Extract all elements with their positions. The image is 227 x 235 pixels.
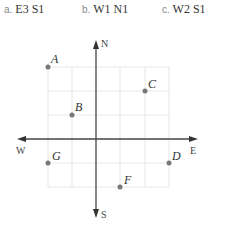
point-c [143, 89, 148, 94]
west-label: W [16, 145, 26, 156]
north-arrow-icon [93, 40, 99, 49]
point-f [118, 185, 123, 190]
point-b [70, 113, 75, 118]
point-g-label: G [52, 149, 61, 163]
east-arrow-icon [189, 136, 198, 142]
point-f-label: F [123, 173, 132, 187]
point-b-label: B [75, 100, 83, 114]
point-g [46, 161, 51, 166]
east-label: E [190, 145, 196, 156]
south-arrow-icon [93, 209, 99, 218]
point-a [46, 65, 51, 70]
west-arrow-icon [17, 136, 26, 142]
point-d-label: D [171, 149, 181, 163]
compass-grid-diagram: N S W E A B C D F G [0, 0, 227, 235]
north-label: N [101, 38, 108, 49]
point-a-label: A [50, 52, 59, 66]
point-d [167, 161, 172, 166]
point-c-label: C [148, 77, 157, 91]
south-label: S [101, 209, 107, 220]
